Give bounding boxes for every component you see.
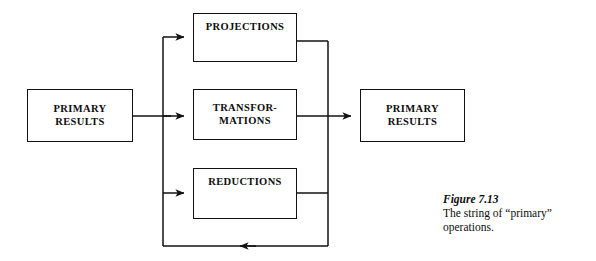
node-reductions: REDUCTIONS bbox=[193, 168, 297, 219]
figure-7-13: PRIMARY RESULTS PROJECTIONS TRANSFOR- MA… bbox=[0, 0, 596, 261]
node-projections: PROJECTIONS bbox=[193, 13, 297, 62]
node-label-primary-results-output: PRIMARY RESULTS bbox=[386, 103, 439, 128]
node-primary-results-output: PRIMARY RESULTS bbox=[360, 89, 465, 142]
node-label-transformations: TRANSFOR- MATIONS bbox=[213, 102, 277, 127]
node-label-primary-results-input: PRIMARY RESULTS bbox=[54, 103, 107, 128]
node-transformations: TRANSFOR- MATIONS bbox=[193, 89, 297, 140]
node-primary-results-input: PRIMARY RESULTS bbox=[27, 89, 133, 142]
node-label-projections: PROJECTIONS bbox=[206, 21, 285, 34]
node-label-reductions: REDUCTIONS bbox=[208, 176, 282, 189]
figure-caption-title: Figure 7.13 bbox=[443, 192, 588, 206]
figure-caption: Figure 7.13 The string of “primary” oper… bbox=[443, 192, 588, 234]
figure-caption-text: The string of “primary” operations. bbox=[443, 206, 588, 234]
